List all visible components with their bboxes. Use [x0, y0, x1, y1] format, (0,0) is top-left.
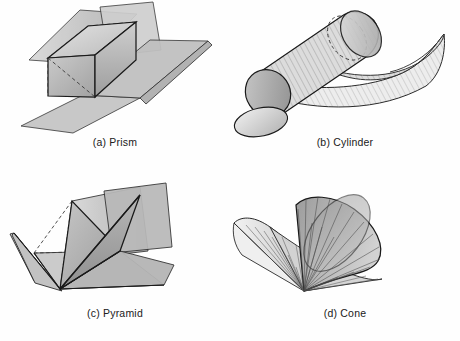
- cone-caption: (d) Cone: [230, 307, 460, 319]
- cylinder-solid: [232, 3, 390, 141]
- cone-solid: [291, 183, 384, 291]
- prism-caption: (a) Prism: [0, 136, 230, 148]
- prism-svg: [0, 0, 230, 142]
- figure-panel-pyramid: (c) Pyramid: [0, 171, 230, 341]
- pyramid-caption: (c) Pyramid: [0, 307, 230, 319]
- figure-panel-cylinder: (b) Cylinder: [230, 0, 460, 170]
- cylinder-illustration: [230, 0, 460, 142]
- cylinder-svg: [230, 0, 460, 142]
- prism-unrolled-face-bottom: [21, 95, 140, 133]
- prism-illustration: [0, 0, 230, 142]
- cone-illustration: [230, 171, 460, 313]
- figure-panel-cone: (d) Cone: [230, 171, 460, 341]
- cylinder-caption: (b) Cylinder: [230, 136, 460, 148]
- figure-sheet: (a) Prism: [0, 0, 460, 341]
- pyramid-illustration: [0, 171, 230, 313]
- cone-svg: [230, 171, 460, 313]
- figure-panel-prism: (a) Prism: [0, 0, 230, 170]
- pyramid-svg: [0, 171, 230, 313]
